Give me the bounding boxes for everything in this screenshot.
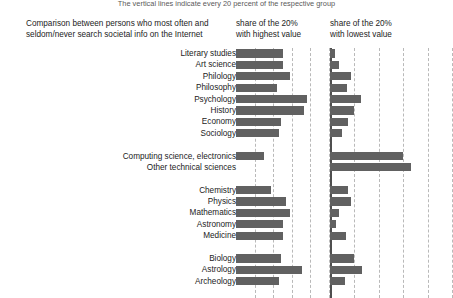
right-panel-cell [330, 185, 452, 196]
bar-lowest-share [330, 106, 354, 114]
chart-row: Philosophy [0, 82, 453, 93]
chart-row: Sociology [0, 128, 453, 139]
right-panel-header-line2: with lowest value [330, 30, 440, 41]
right-panel-cell [330, 116, 452, 127]
bar-highest-share [236, 72, 290, 80]
right-panel-cell [330, 59, 452, 70]
right-panel-header-line1: share of the 20% [330, 19, 440, 30]
left-panel-cell [236, 128, 329, 139]
bar-highest-share [236, 232, 283, 240]
right-panel-cell [330, 128, 452, 139]
bar-lowest-share [330, 95, 361, 103]
category-label: Astrology [36, 264, 236, 275]
chart-page: The vertical lines indicate every 20 per… [0, 0, 453, 298]
category-label: Physics [36, 196, 236, 207]
bar-highest-share [236, 84, 277, 92]
right-panel-cell [330, 94, 452, 105]
left-panel-cell [236, 276, 329, 287]
bar-highest-share [236, 152, 264, 160]
chart-row: History [0, 105, 453, 116]
left-panel-cell [236, 71, 329, 82]
right-panel-cell [330, 48, 452, 59]
bar-lowest-share [330, 129, 342, 137]
category-label: Literary studies [36, 48, 236, 59]
left-panel-cell [236, 264, 329, 275]
chart-title-line1: Comparison between persons who most ofte… [26, 19, 231, 30]
bar-highest-share [236, 209, 290, 217]
right-panel-cell [330, 276, 452, 287]
chart-row: Art science [0, 59, 453, 70]
chart-row: Literary studies [0, 48, 453, 59]
left-panel-cell [236, 116, 329, 127]
category-label: Chemistry [36, 185, 236, 196]
chart-row: Biology [0, 253, 453, 264]
chart-title: Comparison between persons who most ofte… [26, 19, 231, 40]
chart-row-spacer [0, 242, 453, 253]
left-panel-cell [236, 219, 329, 230]
chart-row: Archeology [0, 276, 453, 287]
category-label: History [36, 105, 236, 116]
bar-lowest-share [330, 49, 335, 57]
bar-lowest-share [330, 220, 336, 228]
chart-row: Economy [0, 116, 453, 127]
left-panel-cell [236, 94, 329, 105]
bar-highest-share [236, 277, 279, 285]
bar-lowest-share [330, 61, 339, 69]
chart-row: Other technical sciences [0, 162, 453, 173]
right-panel-cell [330, 162, 452, 173]
right-panel-cell [330, 230, 452, 241]
category-label: Art science [36, 59, 236, 70]
category-label: Psychology [36, 94, 236, 105]
category-label: Biology [36, 253, 236, 264]
bar-lowest-share [330, 266, 362, 274]
right-panel-cell [330, 207, 452, 218]
left-panel-cell [236, 59, 329, 70]
bar-lowest-share [330, 163, 411, 171]
chart-row: Computing science, electronics [0, 151, 453, 162]
left-panel-header: share of the 20% with highest value [236, 19, 336, 40]
bar-highest-share [236, 254, 281, 262]
chart-row-spacer [0, 139, 453, 150]
chart-row: Medicine [0, 230, 453, 241]
left-panel-header-line1: share of the 20% [236, 19, 336, 30]
chart-subtitle: The vertical lines indicate every 20 per… [0, 0, 453, 8]
bar-highest-share [236, 266, 302, 274]
chart-row-spacer [0, 173, 453, 184]
bar-lowest-share [330, 209, 339, 217]
category-label: Sociology [36, 128, 236, 139]
category-label: Economy [36, 116, 236, 127]
bar-lowest-share [330, 84, 347, 92]
right-panel-cell [330, 196, 452, 207]
bar-lowest-share [330, 186, 348, 194]
left-panel-cell [236, 151, 329, 162]
bar-highest-share [236, 197, 286, 205]
left-panel-cell [236, 207, 329, 218]
bar-highest-share [236, 49, 283, 57]
bar-highest-share [236, 186, 271, 194]
right-panel-cell [330, 105, 452, 116]
left-panel-cell [236, 185, 329, 196]
left-panel-cell [236, 230, 329, 241]
bar-lowest-share [330, 232, 346, 240]
right-panel-header: share of the 20% with lowest value [330, 19, 440, 40]
chart-row: Mathematics [0, 207, 453, 218]
bar-highest-share [236, 118, 281, 126]
chart-row: Psychology [0, 94, 453, 105]
bar-lowest-share [330, 72, 351, 80]
left-panel-header-line2: with highest value [236, 30, 336, 41]
category-label: Mathematics [36, 207, 236, 218]
left-panel-cell [236, 196, 329, 207]
category-label: Philology [36, 71, 236, 82]
bar-highest-share [236, 106, 304, 114]
category-label: Archeology [36, 276, 236, 287]
chart-row: Physics [0, 196, 453, 207]
chart-row: Astronomy [0, 219, 453, 230]
left-panel-cell [236, 253, 329, 264]
bar-lowest-share [330, 277, 345, 285]
right-panel-cell [330, 151, 452, 162]
bar-lowest-share [330, 152, 403, 160]
category-label: Other technical sciences [36, 162, 236, 173]
bar-highest-share [236, 61, 283, 69]
left-panel-cell [236, 162, 329, 173]
chart-row: Philology [0, 71, 453, 82]
